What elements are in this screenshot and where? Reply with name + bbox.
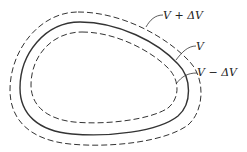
outer-contour [10, 12, 201, 145]
middle-contour [20, 22, 189, 135]
label-inner: V − ΔV [197, 66, 238, 79]
contour-diagram: V + ΔV V V − ΔV [0, 0, 247, 152]
label-outer: V + ΔV [163, 9, 204, 22]
leader-outer [146, 15, 163, 27]
label-middle: V [196, 40, 205, 53]
